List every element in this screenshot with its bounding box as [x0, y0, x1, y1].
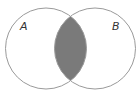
- set-a-label: A: [19, 20, 28, 33]
- set-b-label: B: [112, 20, 120, 33]
- venn-diagram: A B: [0, 0, 138, 93]
